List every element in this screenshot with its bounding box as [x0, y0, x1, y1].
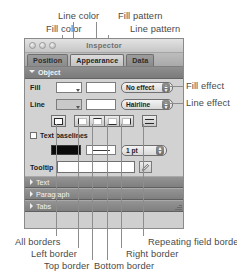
- line-effect-popup[interactable]: Hairline ▲▼: [121, 99, 173, 110]
- annotation-fill-color: Fill color: [46, 24, 82, 34]
- tooltip-edit-button[interactable]: [139, 161, 152, 173]
- annotation-left-border: Left border: [31, 249, 77, 259]
- leader-line-right-border: [121, 124, 122, 248]
- line-pattern-swatch[interactable]: [86, 99, 116, 110]
- annotation-repeating-field-border: Repeating field border: [148, 237, 237, 247]
- tab-appearance[interactable]: Appearance: [70, 54, 124, 66]
- tab-bar: Position Appearance Data: [25, 53, 183, 67]
- leader-line-bottom-border: [107, 124, 108, 260]
- resize-grip-icon[interactable]: [173, 202, 182, 211]
- annotation-top-border: Top border: [44, 261, 89, 271]
- text-baselines-label: Text baselines: [40, 132, 88, 139]
- leader-line-top-border: [92, 124, 93, 260]
- section-header-text-label: Text: [36, 178, 49, 187]
- repeating-field-border-icon: [145, 118, 154, 125]
- chevron-down-icon: [76, 106, 80, 109]
- fill-color-swatch[interactable]: [56, 82, 82, 93]
- annotation-line-effect: Line effect: [186, 98, 230, 108]
- repeating-field-border-button[interactable]: [142, 115, 157, 127]
- window-title-bar[interactable]: Inspector: [25, 39, 183, 53]
- section-header-tabs[interactable]: Tabs: [25, 200, 183, 212]
- fill-row: Fill No effect ▲▼: [25, 79, 183, 96]
- fill-effect-value: No effect: [126, 84, 154, 91]
- annotation-line-pattern: Line pattern: [130, 24, 180, 34]
- line-effect-value: Hairline: [126, 101, 150, 108]
- fill-pattern-swatch[interactable]: [86, 82, 116, 93]
- border-width-popup[interactable]: 1 pt ▲▼: [121, 145, 167, 156]
- annotation-fill-pattern: Fill pattern: [118, 11, 163, 21]
- section-header-paragraph[interactable]: Paragraph: [25, 188, 183, 200]
- all-borders-button[interactable]: [51, 115, 66, 127]
- leader-line-left-border: [78, 124, 79, 248]
- line-color-swatch[interactable]: [56, 99, 82, 110]
- annotation-all-borders: All borders: [15, 237, 61, 247]
- bottom-border-icon: [108, 118, 117, 125]
- disclosure-triangle-icon[interactable]: [30, 203, 33, 209]
- text-baselines-checkbox[interactable]: [30, 132, 37, 139]
- leader-line-fill-effect: [163, 86, 184, 87]
- popup-arrows-icon: ▲▼: [156, 146, 164, 155]
- border-style-row: 1 pt ▲▼: [25, 142, 183, 158]
- section-header-object-label: Object: [38, 68, 60, 77]
- tab-position[interactable]: Position: [27, 54, 68, 66]
- side-border-button-group: [74, 115, 134, 127]
- text-baselines-row[interactable]: Text baselines: [25, 129, 183, 142]
- disclosure-triangle-icon[interactable]: [29, 70, 35, 76]
- appearance-panel-body: Fill No effect ▲▼ Line Hairline ▲▼: [25, 79, 183, 176]
- leader-line-repeating-field-border: [143, 124, 144, 236]
- inspector-window: Inspector Position Appearance Data Objec…: [24, 38, 184, 229]
- section-header-text[interactable]: Text: [25, 176, 183, 188]
- top-border-icon: [93, 118, 102, 125]
- annotation-fill-effect: Fill effect: [186, 81, 224, 91]
- section-header-paragraph-label: Paragraph: [36, 190, 70, 199]
- section-header-object[interactable]: Object: [25, 67, 183, 79]
- annotation-right-border: Right border: [126, 249, 178, 259]
- line-row: Line Hairline ▲▼: [25, 96, 183, 113]
- border-button-strip: [25, 113, 183, 129]
- screenshot-root: Line color Fill pattern Fill color Line …: [0, 0, 237, 276]
- tooltip-input[interactable]: [57, 161, 135, 173]
- line-label: Line: [30, 100, 56, 109]
- fill-effect-popup[interactable]: No effect ▲▼: [121, 82, 173, 93]
- annotation-line-color: Line color: [58, 11, 99, 21]
- chevron-down-icon: [76, 89, 80, 92]
- leader-line-line-effect: [163, 103, 184, 104]
- tooltip-label: Tooltip: [30, 163, 53, 172]
- popup-arrows-icon: ▲▼: [162, 83, 170, 92]
- right-border-icon: [122, 118, 131, 125]
- tooltip-row: Tooltip: [25, 158, 183, 176]
- annotation-bottom-border: Bottom border: [94, 261, 154, 271]
- left-border-button[interactable]: [74, 115, 89, 127]
- popup-arrows-icon: ▲▼: [162, 100, 170, 109]
- disclosure-triangle-icon[interactable]: [30, 191, 33, 197]
- tab-data[interactable]: Data: [126, 54, 154, 66]
- section-header-tabs-label: Tabs: [36, 202, 51, 211]
- leader-line-all-borders: [56, 124, 57, 236]
- window-title: Inspector: [25, 41, 183, 50]
- fill-label: Fill: [30, 83, 56, 92]
- disclosure-triangle-icon[interactable]: [30, 179, 33, 185]
- border-pattern-swatch[interactable]: [86, 145, 116, 155]
- border-width-value: 1 pt: [126, 147, 138, 154]
